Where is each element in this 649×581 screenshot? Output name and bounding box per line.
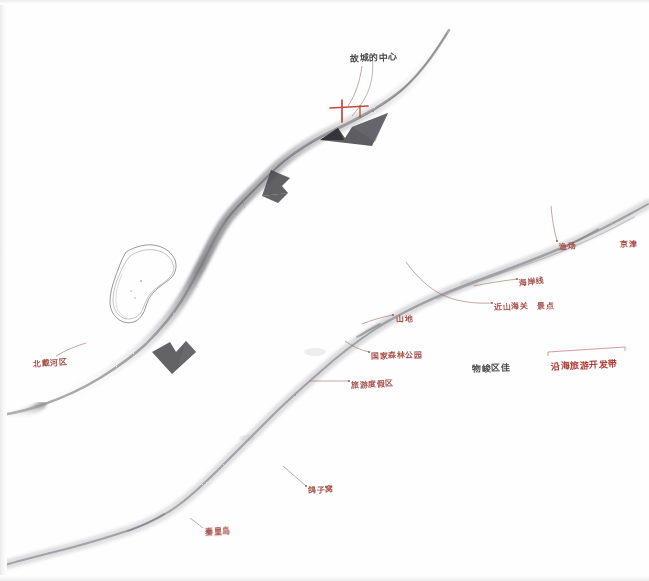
leader-line-a13 [283, 466, 306, 486]
map-annotation-a1: 故城的中心 [350, 50, 398, 65]
scan-edge-shadow-bottom [0, 575, 649, 581]
scanned-map-sheet: 故城的中心北戴河区山地国家森林公园旅游度假区渔场京津海岸线近山海关景点物峻区佳沿… [0, 0, 649, 581]
bracket-a12 [548, 347, 625, 356]
map-annotation-a6: 渔场 [559, 240, 577, 252]
leader-line-a14 [190, 518, 203, 528]
scan-edge-shadow-top [0, 0, 649, 5]
leader-line-a2 [56, 343, 86, 356]
ridge-notch-lower-left [152, 341, 196, 374]
map-annotation-a13: 鸽子窝 [308, 483, 334, 495]
map-annotation-a11: 物峻区佳 [472, 361, 510, 375]
map-annotation-a4: 国家森林公园 [371, 348, 422, 361]
map-annotation-a9: 近山海关 [494, 299, 529, 312]
map-annotation-a5: 旅游度假区 [351, 377, 394, 390]
map-annotation-a10: 景点 [537, 299, 555, 311]
cross-marker-horizontal [330, 106, 368, 108]
map-annotation-a7: 京津 [620, 237, 637, 249]
closed-contour-island [110, 245, 176, 323]
leader-line-a6 [551, 206, 557, 241]
map-annotation-a14: 秦皇岛 [205, 524, 231, 537]
map-annotation-a3: 山地 [396, 312, 414, 324]
scan-edge-shadow-left [0, 0, 7, 581]
leader-line-a1 [348, 66, 362, 106]
